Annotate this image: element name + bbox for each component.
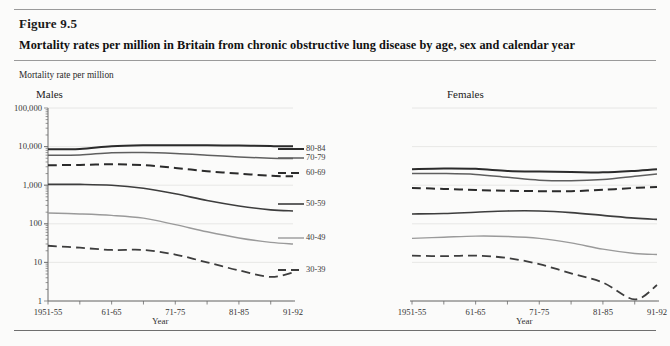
panel-title-females: Females: [447, 88, 484, 100]
x-axis-tick-label: 61-65: [452, 307, 500, 317]
series-line-30-39: [48, 246, 293, 277]
x-axis-title-males: Year: [152, 316, 169, 326]
x-axis-title-females: Year: [516, 316, 533, 326]
series-line-70-79: [48, 153, 293, 159]
divider-middle: [14, 60, 656, 61]
series-line-40-49: [48, 213, 293, 244]
x-axis-tick-label: 91-92: [633, 307, 670, 317]
legend-swatch-40-49: [278, 234, 304, 242]
y-axis-tick-label: 1,000: [2, 180, 42, 190]
legend-swatch-70-79: [278, 154, 304, 162]
series-line-40-49: [412, 236, 657, 254]
y-axis-tick-label: 100: [2, 218, 42, 228]
legend-label-70-79: 70-79: [306, 153, 326, 162]
legend-swatch-80-84: [278, 145, 304, 153]
series-line-50-59: [48, 184, 293, 211]
x-axis-tick-label: 81-85: [579, 307, 627, 317]
legend-swatch-30-39: [278, 266, 304, 274]
x-axis-tick-label: 61-65: [88, 307, 136, 317]
y-axis-tick-label: 10,000: [2, 141, 42, 151]
series-line-80-84: [48, 145, 293, 149]
divider-bottom: [14, 330, 656, 331]
series-line-50-59: [412, 211, 657, 220]
legend-label-40-49: 40-49: [306, 233, 326, 242]
x-axis-tick-label: 81-85: [215, 307, 263, 317]
chart-panel-females: [412, 108, 657, 313]
legend-label-60-69: 60-69: [306, 168, 326, 177]
series-line-70-79: [412, 174, 657, 181]
y-axis-tick-label: 10: [2, 257, 42, 267]
plot-area-females: [412, 108, 659, 315]
series-line-80-84: [412, 169, 657, 173]
x-axis-tick-label: 1951-55: [388, 307, 436, 317]
figure-title: Mortality rates per million in Britain f…: [19, 38, 575, 53]
y-axis-tick-label: 100,000: [2, 103, 42, 113]
y-axis-tick-label: 1: [2, 296, 42, 306]
figure-container: Figure 9.5 Mortality rates per million i…: [0, 0, 670, 346]
plot-area-males: [48, 108, 295, 315]
series-line-60-69: [48, 164, 293, 176]
legend-swatch-50-59: [278, 200, 304, 208]
legend-label-50-59: 50-59: [306, 199, 326, 208]
divider-top: [14, 9, 656, 10]
x-axis-tick-label: 91-92: [269, 307, 317, 317]
panel-title-males: Males: [36, 88, 63, 100]
legend-swatch-60-69: [278, 169, 304, 177]
x-axis-tick-label: 1951-55: [24, 307, 72, 317]
chart-panel-males: [48, 108, 293, 313]
series-line-60-69: [412, 187, 657, 191]
figure-number: Figure 9.5: [19, 16, 77, 32]
legend-label-30-39: 30-39: [306, 265, 326, 274]
y-axis-caption: Mortality rate per million: [19, 70, 114, 80]
